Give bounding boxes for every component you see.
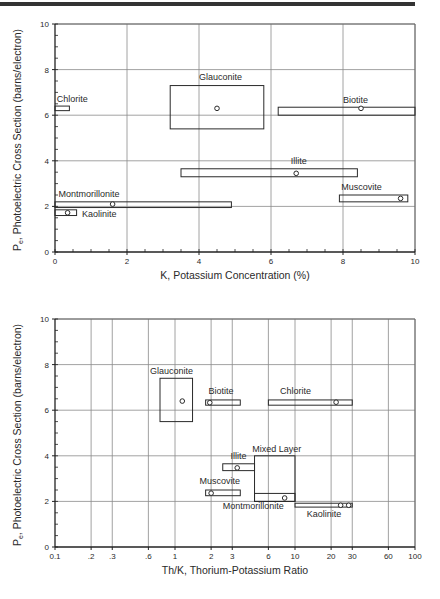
mineral-range-box: [268, 400, 352, 405]
mineral-label: Glauconite: [199, 72, 242, 82]
x-tick-label: 100: [408, 552, 422, 561]
x-tick-label: 0: [53, 257, 58, 266]
mineral-range-box: [181, 169, 357, 177]
top-x-axis-label: K, Potassium Concentration (%): [160, 269, 309, 281]
mineral-mean-marker: [215, 106, 220, 111]
mineral-mean-marker: [235, 466, 240, 471]
x-tick-label: .3: [109, 552, 116, 561]
mineral-glauconite: Glauconite: [150, 366, 193, 422]
mineral-label: Kaolinite: [82, 209, 117, 219]
x-tick-label: .6: [145, 552, 152, 561]
mineral-label: Montmorillonite: [59, 189, 120, 199]
mineral-mean-marker: [346, 503, 351, 508]
y-tick-label: 8: [45, 66, 50, 75]
mineral-mean-marker: [180, 399, 185, 404]
mineral-label: Muscovite: [199, 476, 240, 486]
x-tick-label: 3: [230, 552, 235, 561]
y-tick-label: 10: [40, 20, 49, 29]
y-tick-label: 2: [45, 202, 50, 211]
mineral-range-box: [295, 503, 352, 507]
x-tick-label: 4: [197, 257, 202, 266]
x-tick-label: 1: [173, 552, 178, 561]
mineral-range-box: [278, 107, 415, 115]
y-tick-label: 6: [45, 406, 50, 415]
y-tick-label: 8: [45, 361, 50, 370]
mineral-range-box: [55, 106, 69, 111]
mineral-mean-marker: [334, 400, 339, 405]
mineral-label: Illite: [291, 156, 307, 166]
bottom-x-axis-label: Th/K, Thorium-Potassium Ratio: [162, 564, 308, 576]
mineral-mean-marker: [338, 503, 343, 508]
mineral-label: Montmorillonite: [223, 501, 284, 511]
mineral-label: Muscovite: [341, 182, 382, 192]
mineral-mean-marker: [294, 171, 299, 176]
mineral-label: Illite: [230, 451, 246, 461]
y-tick-label: 6: [45, 111, 50, 120]
mineral-label: Kaolinite: [307, 509, 342, 519]
mineral-illite: Illite: [223, 451, 255, 470]
x-tick-label: 30: [348, 552, 357, 561]
x-tick-label: 20: [327, 552, 336, 561]
mineral-mean-marker: [208, 400, 213, 405]
y-tick-label: 4: [45, 157, 50, 166]
x-tick-label: 0.1: [49, 552, 61, 561]
x-tick-label: 10: [411, 257, 420, 266]
mineral-kaolinite: Kaolinite: [295, 503, 352, 519]
mineral-biotite: Biotite: [206, 386, 241, 405]
y-tick-label: 10: [40, 315, 49, 324]
mineral-chlorite: Chlorite: [268, 386, 352, 405]
mineral-range-box: [339, 195, 407, 202]
x-tick-label: 8: [341, 257, 346, 266]
mineral-mean-marker: [65, 210, 70, 215]
x-tick-label: 60: [384, 552, 393, 561]
mineral-label: Biotite: [343, 95, 368, 105]
mineral-range-box: [255, 456, 295, 502]
pe-vs-potassium-chart: 02468100246810ChloriteGlauconiteBiotiteI…: [40, 20, 420, 266]
mineral-mean-marker: [359, 106, 364, 111]
mineral-mean-marker: [398, 196, 403, 201]
mineral-range-box: [160, 378, 193, 421]
mineral-range-box: [255, 493, 295, 501]
bottom-y-axis-label: Pe, Photoelectric Cross Section (barns/e…: [11, 324, 24, 546]
mineral-label: Biotite: [208, 386, 233, 396]
mineral-chlorite: Chlorite: [55, 94, 88, 111]
mineral-label: Chlorite: [57, 94, 88, 104]
mineral-illite: Illite: [181, 156, 357, 177]
x-tick-label: 6: [266, 552, 271, 561]
mineral-mean-marker: [282, 496, 287, 501]
pe-vs-thk-ratio-chart: 02468100.1.2.3.6123610203060100Glauconit…: [40, 315, 422, 561]
mineral-biotite: Biotite: [278, 95, 415, 116]
y-tick-label: 2: [45, 497, 50, 506]
mineral-label: Chlorite: [280, 386, 311, 396]
y-tick-label: 4: [45, 452, 50, 461]
x-tick-label: 2: [125, 257, 130, 266]
x-tick-label: 10: [291, 552, 300, 561]
mineral-label: Mixed Layer: [252, 444, 301, 454]
x-tick-label: 6: [269, 257, 274, 266]
mineral-mean-marker: [110, 202, 115, 207]
x-tick-label: 2: [209, 552, 214, 561]
mineral-kaolinite: Kaolinite: [55, 209, 117, 219]
top-y-axis-label: Pe, Photoelectric Cross Section (barns/e…: [11, 29, 24, 251]
y-tick-label: 0: [45, 248, 50, 257]
y-tick-label: 0: [45, 543, 50, 552]
mineral-muscovite: Muscovite: [199, 476, 240, 495]
mineral-mixed-layer: Mixed Layer: [252, 444, 301, 501]
mineral-mean-marker: [209, 491, 214, 496]
mineral-label: Glauconite: [150, 366, 193, 376]
pe-crossplots: 02468100246810ChloriteGlauconiteBiotiteI…: [0, 0, 440, 599]
x-tick-label: .2: [88, 552, 95, 561]
mineral-glauconite: Glauconite: [170, 72, 264, 129]
mineral-muscovite: Muscovite: [339, 182, 407, 201]
mineral-montmorillonite: Montmorillonite: [55, 189, 231, 207]
